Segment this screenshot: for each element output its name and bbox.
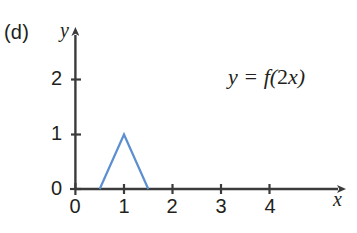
x-tick-label-3: 3 — [209, 195, 233, 218]
x-tick-label-0: 0 — [63, 195, 87, 218]
y-tick-label-1: 1 — [40, 122, 62, 145]
x-tick-label-2: 2 — [160, 195, 184, 218]
x-tick-label-1: 1 — [112, 195, 136, 218]
y-tick-label-0: 0 — [40, 177, 62, 200]
y-tick-label-2: 2 — [40, 67, 62, 90]
function-curve — [100, 135, 149, 190]
x-tick-label-4: 4 — [258, 195, 282, 218]
figure-panel-d: (d) y x y = f(2x) — [0, 0, 357, 233]
